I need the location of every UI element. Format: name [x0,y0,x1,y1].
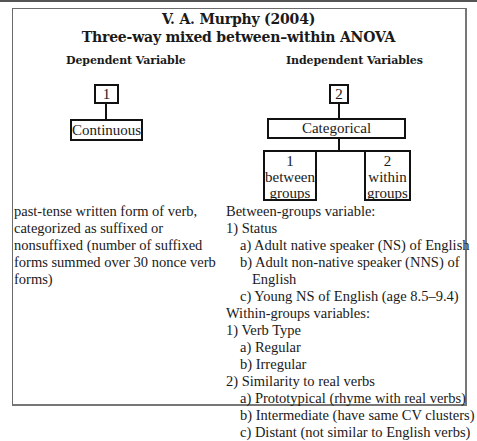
within-groups-label-1: within [366,169,409,185]
between-groups-label-2: groups [265,185,315,201]
independent-type: Categorical [302,120,371,136]
between-groups-number: 1 [265,153,315,169]
within-groups-label-2: groups [366,185,409,201]
similarity-option-a: a) Prototypical (rhyme with real verbs) [240,390,466,407]
similarity-option-c: c) Distant (not similar to English verbs… [240,424,470,441]
between-groups-box: 1 between groups [263,150,317,201]
status-option-a: a) Adult native speaker (NS) of English [240,237,470,254]
dependent-number: 1 [103,86,111,102]
diagram-subtitle: Three-way mixed between–within ANOVA [0,29,477,45]
diagram-title: V. A. Murphy (2004) [0,11,477,27]
verb-type-option-a: a) Regular [240,339,301,356]
independent-heading: Independent Variables [286,54,423,67]
status-item: 1) Status [226,220,277,237]
within-groups-heading: Within-groups variables: [226,305,370,322]
between-groups-label-1: between [265,169,315,185]
between-groups-heading: Between-groups variable: [226,203,375,220]
within-groups-number: 2 [366,153,409,169]
dependent-description: past-tense written form of verb, categor… [14,203,224,288]
similarity-item: 2) Similarity to real verbs [226,373,375,390]
independent-number: 2 [335,86,343,102]
independent-number-box: 2 [329,84,349,104]
independent-type-box: Categorical [267,118,406,139]
similarity-option-b: b) Intermediate (have same CV clusters) [240,407,474,424]
verb-type-option-b: b) Irregular [240,356,306,373]
dependent-type: Continuous [72,122,141,138]
dependent-number-box: 1 [94,84,119,104]
top-border [0,0,477,2]
independent-connector-top [338,104,340,118]
dependent-heading: Dependent Variable [66,54,186,67]
dependent-type-box: Continuous [70,119,143,141]
status-option-b-cont: English [252,271,296,288]
within-groups-box: 2 within groups [364,150,411,201]
verb-type-item: 1) Verb Type [226,322,301,339]
status-option-c: c) Young NS of English (age 8.5–9.4) [240,288,459,305]
dependent-connector [105,104,107,119]
status-option-b: b) Adult non-native speaker (NNS) of [240,254,459,271]
